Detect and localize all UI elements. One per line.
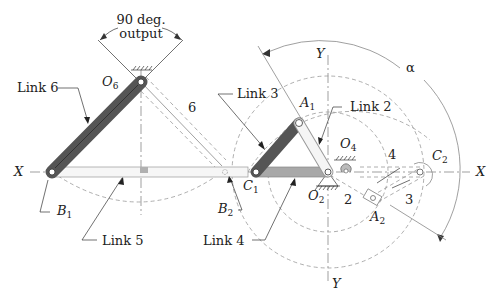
link5-slot-mark xyxy=(140,167,148,173)
c1-pin xyxy=(253,169,259,175)
link5-arrowhead xyxy=(118,177,124,185)
b2-leader xyxy=(230,178,242,210)
label-a1: A1 xyxy=(299,95,315,112)
a2-leader xyxy=(377,168,400,183)
alpha-arrowhead-top xyxy=(262,49,270,57)
output-arrowhead-left xyxy=(100,33,107,40)
alpha-arc xyxy=(268,41,400,68)
label-c2: C2 xyxy=(432,148,448,165)
a2-pin xyxy=(371,196,376,201)
b1-leader xyxy=(40,180,50,212)
link6-leader xyxy=(58,88,88,122)
a1-pin xyxy=(296,120,303,127)
output-angle-line-right xyxy=(141,40,183,82)
output-label-line1: 90 deg. xyxy=(116,12,165,27)
label-o4: O4 xyxy=(340,136,357,153)
link6-ghost-position xyxy=(136,77,226,168)
alpha-ref-line-bottom xyxy=(390,205,446,240)
label-alpha: α xyxy=(406,60,415,75)
label-link5: Link 5 xyxy=(102,233,143,248)
b1-pin xyxy=(49,169,55,175)
linkage-diagram: 90 deg. output xyxy=(0,0,500,307)
label-link6: Link 6 xyxy=(17,80,58,95)
link5-bar xyxy=(52,167,248,177)
link2-bar xyxy=(299,123,328,172)
link3-leader xyxy=(218,94,264,148)
o2-pin xyxy=(325,169,331,175)
o4-pin-hole xyxy=(344,169,348,173)
label-x-right: X xyxy=(475,164,486,179)
label-link4: Link 4 xyxy=(203,233,244,248)
label-b1: B1 xyxy=(56,203,72,220)
label-o2: O2 xyxy=(308,188,324,205)
label-num2: 2 xyxy=(344,192,352,207)
link5-leader xyxy=(82,178,122,240)
link6-arrowhead xyxy=(84,117,90,124)
link4-arrowhead xyxy=(290,178,296,186)
label-y-top: Y xyxy=(316,46,326,61)
ground-o6 xyxy=(131,66,152,70)
label-y-bottom: Y xyxy=(332,276,342,291)
ground-o4 xyxy=(334,156,356,160)
label-b2: B2 xyxy=(217,201,233,218)
alpha-ref-line-top xyxy=(258,46,302,120)
label-x-left: X xyxy=(13,164,24,179)
label-a2: A2 xyxy=(369,209,385,226)
c2-pin xyxy=(417,169,423,175)
label-link3: Link 3 xyxy=(237,86,278,101)
link2-arrowhead xyxy=(318,137,323,145)
num3-ref-line xyxy=(392,180,410,188)
output-label-line2: output xyxy=(119,26,163,41)
label-o6: O6 xyxy=(102,74,119,91)
link3-ghost-lower xyxy=(378,176,424,202)
label-link2: Link 2 xyxy=(350,99,391,114)
label-c1: C1 xyxy=(243,178,259,195)
link6-highlight xyxy=(55,85,138,168)
label-num3: 3 xyxy=(405,192,413,207)
label-num4: 4 xyxy=(388,147,396,162)
o6-pin xyxy=(138,79,144,85)
label-num6: 6 xyxy=(188,100,196,115)
diagram-canvas: 90 deg. output xyxy=(0,0,500,307)
